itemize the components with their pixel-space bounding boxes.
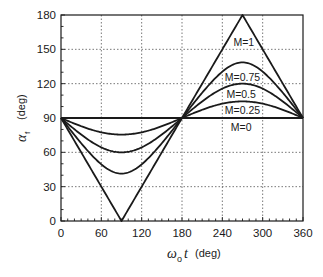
curve-label: M=0.5 <box>226 88 256 100</box>
curve-label: M=1 <box>233 36 254 48</box>
x-tick-label: 300 <box>253 227 272 239</box>
y-tick-labels: 0306090120150180 <box>37 9 56 227</box>
y-tick-label: 0 <box>50 215 56 227</box>
y-axis-label: α f (deg) <box>14 94 32 142</box>
y-axis-unit: (deg) <box>15 94 27 120</box>
x-axis-label: ω o t (deg) <box>167 246 221 264</box>
y-tick-label: 60 <box>43 146 56 158</box>
y-tick-label: 180 <box>37 9 56 21</box>
y-tick-label: 90 <box>43 112 56 124</box>
y-tick-label: 120 <box>37 78 56 90</box>
x-tick-label: 60 <box>95 227 108 239</box>
x-tick-labels: 060120180240300360 <box>58 227 313 239</box>
x-axis-subscript: o <box>177 254 182 264</box>
x-tick-label: 120 <box>132 227 151 239</box>
x-axis-unit: (deg) <box>195 247 221 259</box>
curve-label: M=0.75 <box>225 71 260 83</box>
x-tick-label: 180 <box>172 227 191 239</box>
y-axis-symbol: α <box>14 134 29 142</box>
y-tick-label: 150 <box>37 43 56 55</box>
curve-label: M=0.25 <box>225 104 260 116</box>
x-axis-symbol: ω <box>167 246 177 261</box>
y-axis-subscript: f <box>23 131 32 134</box>
x-tick-label: 360 <box>293 227 312 239</box>
x-axis-variable: t <box>184 246 189 261</box>
curve-label: M=0 <box>231 121 252 133</box>
x-tick-label: 240 <box>213 227 232 239</box>
y-tick-label: 30 <box>43 181 56 193</box>
x-tick-label: 0 <box>58 227 64 239</box>
chart: 060120180240300360 0306090120150180 M=1M… <box>0 0 323 277</box>
